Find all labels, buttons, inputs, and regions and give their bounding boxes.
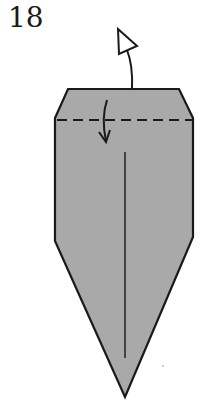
origami-diagram (0, 0, 224, 407)
paper-shape (55, 89, 193, 397)
speck (162, 365, 164, 367)
unfold-up-arrow-icon (118, 29, 137, 89)
